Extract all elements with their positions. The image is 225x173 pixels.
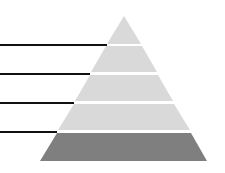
pyramid-level-5: [40, 133, 207, 161]
pyramid-level-4: [58, 104, 190, 130]
pyramid-level-1: [107, 16, 141, 44]
pyramid-level-2: [91, 46, 157, 72]
pyramid-diagram: [0, 0, 225, 173]
pyramid-level-3: [75, 75, 173, 101]
